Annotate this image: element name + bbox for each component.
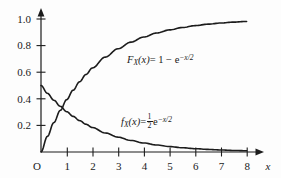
pdf-argument: (x) (129, 116, 141, 127)
y-tick-label-3: 0.8 (17, 39, 31, 51)
pdf-equals-sign: = (140, 116, 146, 127)
x-tick-label-0: 1 (65, 160, 71, 172)
pdf-exponent: −x/2 (158, 115, 172, 124)
exponential-distribution-figure: 0.2 0.4 0.6 0.8 1.0 1 2 3 4 5 6 7 8 O x … (0, 0, 281, 178)
x-tick-label-6: 7 (219, 160, 225, 172)
cdf-exponent: −x/2 (179, 53, 193, 62)
x-axis-arrowhead (256, 149, 265, 156)
cdf-curve (41, 21, 247, 152)
pdf-fraction-denominator: 2 (147, 122, 153, 130)
y-axis-arrowhead (38, 8, 45, 17)
y-tick-label-4: 1.0 (17, 13, 31, 25)
cdf-equals-expression: = 1 − e (150, 54, 180, 65)
pdf-fraction: 12 (147, 113, 153, 130)
y-tick-label-1: 0.4 (17, 93, 31, 105)
origin-label: O (33, 160, 41, 172)
y-tick-label-0: 0.2 (17, 119, 31, 131)
cdf-argument: (x) (138, 54, 150, 65)
x-tick-label-1: 2 (90, 160, 96, 172)
chart-canvas: 0.2 0.4 0.6 0.8 1.0 1 2 3 4 5 6 7 8 O x (0, 0, 281, 178)
x-axis-name: x (265, 160, 271, 172)
x-tick-label-5: 6 (193, 160, 199, 172)
x-tick-label-7: 8 (244, 160, 250, 172)
y-tick-label-2: 0.6 (17, 66, 31, 78)
pdf-annotation: fX(x)=12e−x/2 (121, 113, 172, 130)
x-tick-label-2: 3 (116, 160, 122, 172)
x-tick-label-3: 4 (142, 160, 148, 172)
x-tick-label-4: 5 (167, 160, 173, 172)
cdf-annotation: FX(x)= 1 − e−x/2 (127, 54, 194, 67)
